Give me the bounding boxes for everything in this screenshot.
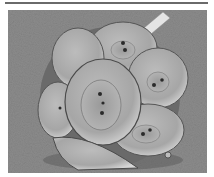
top-divider-line (5, 2, 208, 4)
sem-micrograph-image (8, 10, 207, 173)
coccosphere-illustration (8, 10, 207, 173)
